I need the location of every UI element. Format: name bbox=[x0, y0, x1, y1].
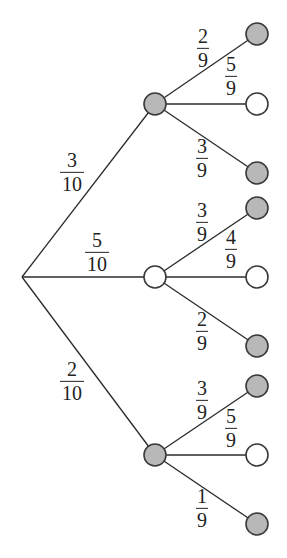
numerator: 5 bbox=[226, 54, 236, 74]
tree-node-leaf-shaded bbox=[246, 513, 268, 535]
branch-label-b: 5 10 bbox=[85, 230, 109, 274]
numerator: 3 bbox=[67, 150, 77, 170]
tree-node-leaf-unshaded bbox=[246, 93, 268, 115]
denominator: 10 bbox=[87, 254, 107, 274]
branch-label-a1: 2 9 bbox=[197, 26, 209, 70]
tree-node-leaf-unshaded bbox=[246, 266, 268, 288]
denominator: 10 bbox=[62, 174, 82, 194]
numerator: 4 bbox=[226, 227, 236, 247]
numerator: 2 bbox=[67, 359, 77, 379]
numerator: 1 bbox=[197, 486, 207, 506]
branch-label-c: 2 10 bbox=[60, 359, 84, 403]
denominator: 10 bbox=[62, 383, 82, 403]
branch-label-a: 3 10 bbox=[60, 150, 84, 194]
tree-node-level1-shaded bbox=[144, 93, 166, 115]
denominator: 9 bbox=[226, 430, 236, 450]
branch-label-b2: 4 9 bbox=[225, 227, 237, 271]
tree-node-leaf-shaded bbox=[246, 197, 268, 219]
tree-node-leaf-shaded bbox=[246, 375, 268, 397]
denominator: 9 bbox=[197, 333, 207, 353]
branch-label-b3: 2 9 bbox=[196, 309, 208, 353]
tree-node-level1-unshaded bbox=[144, 266, 166, 288]
denominator: 9 bbox=[197, 510, 207, 530]
tree-node-leaf-shaded bbox=[246, 23, 268, 45]
tree-node-leaf-unshaded bbox=[246, 444, 268, 466]
branch-label-a2: 5 9 bbox=[225, 54, 237, 98]
denominator: 9 bbox=[198, 50, 208, 70]
probability-tree-diagram bbox=[0, 0, 287, 558]
branch-label-c1: 3 9 bbox=[196, 378, 208, 422]
branch-label-c3: 1 9 bbox=[196, 486, 208, 530]
numerator: 2 bbox=[197, 309, 207, 329]
denominator: 9 bbox=[197, 224, 207, 244]
numerator: 3 bbox=[197, 200, 207, 220]
denominator: 9 bbox=[226, 78, 236, 98]
branch-label-c2: 5 9 bbox=[225, 406, 237, 450]
tree-nodes bbox=[144, 23, 268, 535]
tree-node-leaf-shaded bbox=[246, 162, 268, 184]
denominator: 9 bbox=[197, 160, 207, 180]
numerator: 3 bbox=[197, 378, 207, 398]
denominator: 9 bbox=[197, 402, 207, 422]
numerator: 5 bbox=[226, 406, 236, 426]
branch-label-b1: 3 9 bbox=[196, 200, 208, 244]
tree-node-leaf-shaded bbox=[246, 335, 268, 357]
tree-node-level1-shaded bbox=[144, 444, 166, 466]
numerator: 2 bbox=[198, 26, 208, 46]
branch-label-a3: 3 9 bbox=[196, 136, 208, 180]
numerator: 3 bbox=[197, 136, 207, 156]
denominator: 9 bbox=[226, 251, 236, 271]
tree-edges bbox=[22, 34, 257, 524]
numerator: 5 bbox=[92, 230, 102, 250]
branch-edge bbox=[22, 277, 155, 455]
